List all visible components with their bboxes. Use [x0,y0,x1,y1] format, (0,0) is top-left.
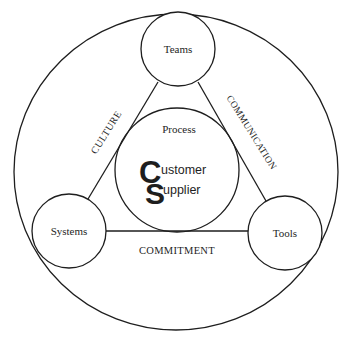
process-label: Process [162,123,196,135]
customer-supplier-logo: C S ustomer upplier [139,155,206,210]
customer-supplier-diagram: Teams Systems Tools CULTURE COMMUNICATIO… [0,0,352,341]
edge-commitment-label: COMMITMENT [139,245,215,256]
logo-big-s: S [145,177,165,210]
logo-supplier-text: upplier [163,183,201,197]
logo-customer-text: ustomer [161,163,206,177]
node-teams-label: Teams [164,43,193,55]
edge-communication-label: COMMUNICATION [225,93,279,171]
node-tools-label: Tools [273,227,297,239]
node-systems-label: Systems [51,225,88,237]
